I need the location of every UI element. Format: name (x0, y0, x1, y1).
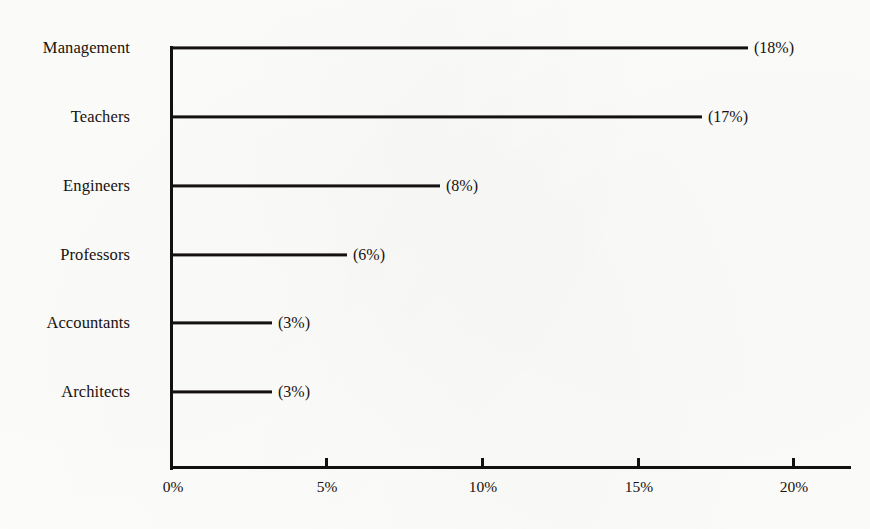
x-tick-label-10: 10% (469, 479, 497, 495)
value-label-engineers: (8%) (446, 178, 478, 194)
bar-teachers (172, 115, 702, 118)
x-tick-label-20: 20% (780, 479, 808, 495)
horizontal-bar-chart: Management Teachers Engineers Professors… (0, 0, 870, 529)
value-label-teachers: (17%) (708, 109, 748, 125)
y-axis-line (170, 46, 173, 470)
bar-architects (172, 390, 272, 393)
value-label-management: (18%) (754, 40, 794, 56)
category-label-accountants: Accountants (0, 315, 130, 332)
x-tick-15 (637, 458, 640, 467)
value-label-professors: (6%) (353, 247, 385, 263)
bar-accountants (172, 321, 272, 324)
category-label-management: Management (0, 40, 130, 57)
category-label-architects: Architects (0, 384, 130, 401)
x-tick-label-15: 15% (625, 479, 653, 495)
category-label-professors: Professors (0, 247, 130, 264)
category-label-engineers: Engineers (0, 178, 130, 195)
x-tick-20 (792, 458, 795, 467)
x-axis-line (170, 466, 851, 469)
x-tick-label-5: 5% (317, 479, 338, 495)
category-label-teachers: Teachers (0, 109, 130, 126)
x-tick-5 (325, 458, 328, 467)
paper-grain-overlay (0, 0, 870, 529)
bar-management (172, 46, 748, 49)
x-tick-10 (481, 458, 484, 467)
bar-engineers (172, 184, 440, 187)
x-tick-label-0: 0% (163, 479, 184, 495)
x-tick-0 (170, 458, 173, 467)
value-label-architects: (3%) (278, 384, 310, 400)
bar-professors (172, 253, 347, 256)
value-label-accountants: (3%) (278, 315, 310, 331)
